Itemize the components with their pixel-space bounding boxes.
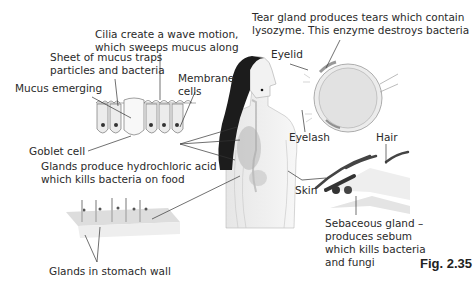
membrane-cells-illustration: [96, 98, 196, 135]
membrane-cells-label-line1: Membrane: [178, 72, 234, 85]
hcl-glands-label: Glands produce hydrochloric acid which k…: [41, 160, 217, 186]
hcl-glands-label-line1: Glands produce hydrochloric acid: [41, 160, 217, 173]
stomach-wall-illustration: [66, 198, 180, 238]
goblet-cell-label: Goblet cell: [29, 145, 85, 158]
mucus-sheet-label: Sheet of mucus traps particles and bacte…: [50, 51, 165, 77]
tear-gland-label: Tear gland produces tears which contain …: [252, 11, 469, 37]
skin-section-illustration: [316, 152, 410, 214]
figure-caption: Fig. 2.35: [420, 256, 472, 271]
mucus-sheet-label-line1: Sheet of mucus traps: [50, 51, 165, 64]
stomach-glands-label: Glands in stomach wall: [49, 265, 171, 278]
cilia-label-line1: Cilia create a wave motion,: [95, 28, 239, 41]
mucus-emerging-label: Mucus emerging: [15, 82, 102, 95]
sebaceous-label-line4: and fungi: [325, 256, 426, 269]
sebaceous-gland-label: Sebaceous gland – produces sebum which k…: [325, 217, 426, 269]
tear-gland-label-line1: Tear gland produces tears which contain: [252, 11, 469, 24]
tear-gland-label-line2: lysozyme. This enzyme destroys bacteria: [252, 24, 469, 37]
sebaceous-label-line3: which kills bacteria: [325, 243, 426, 256]
sebaceous-label-line2: produces sebum: [325, 230, 426, 243]
membrane-cells-label-line2: cells: [178, 85, 234, 98]
eye-illustration: [303, 62, 398, 132]
hcl-glands-label-line2: which kills bacteria on food: [41, 173, 217, 186]
eyelid-label: Eyelid: [271, 48, 303, 61]
membrane-cells-label: Membrane cells: [178, 72, 234, 98]
skin-label: Skin: [295, 184, 317, 197]
sebaceous-label-line1: Sebaceous gland –: [325, 217, 426, 230]
hair-label: Hair: [376, 131, 398, 144]
eyelash-label: Eyelash: [289, 131, 330, 144]
mucus-sheet-label-line2: particles and bacteria: [50, 64, 165, 77]
